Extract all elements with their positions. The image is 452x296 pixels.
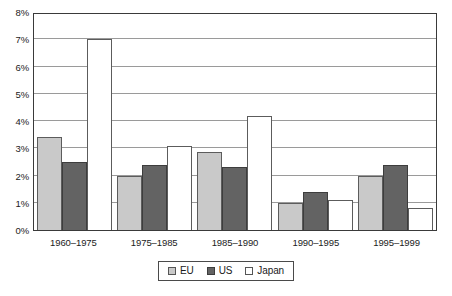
bar-group [197,14,272,230]
legend-box: EUUSJapan [158,261,294,281]
y-axis-tick-label: 5% [0,90,29,100]
legend-entry-eu[interactable]: EU [168,265,194,276]
y-axis-tick-label: 3% [0,144,29,154]
x-axis-tick-label: 1960–1975 [33,236,113,254]
bar-japan-1990-1995[interactable] [328,200,353,230]
legend: EUUSJapan [0,261,452,281]
bar-eu-1985-1990[interactable] [197,152,222,230]
y-axis: 8%7%6%5%4%3%2%1%0% [0,8,29,238]
bar-eu-1975-1985[interactable] [117,176,142,231]
bar-japan-1985-1990[interactable] [247,116,272,230]
legend-entry-japan[interactable]: Japan [245,265,284,276]
bar-us-1960-1975[interactable] [62,162,87,230]
y-axis-tick-label: 0% [0,226,29,236]
bar-group [278,14,353,230]
y-axis-tick-label: 7% [0,35,29,45]
plot-area [33,13,437,231]
bar-us-1990-1995[interactable] [303,192,328,230]
legend-swatch-japan-icon [245,267,253,275]
y-axis-tick-label: 6% [0,63,29,73]
bars-layer [34,14,436,230]
x-axis: 1960–19751975–19851985–19901990–19951995… [33,236,437,254]
bar-eu-1995-1999[interactable] [358,176,383,231]
y-axis-tick-label: 2% [0,172,29,182]
legend-entry-us[interactable]: US [207,265,233,276]
x-axis-tick-label: 1995–1999 [357,236,437,254]
legend-label: US [219,265,233,276]
legend-swatch-us-icon [207,267,215,275]
bar-eu-1990-1995[interactable] [278,203,303,230]
bar-group [358,14,433,230]
x-axis-tick-label: 1975–1985 [114,236,194,254]
chart-figure: 8%7%6%5%4%3%2%1%0% 1960–19751975–1985198… [0,0,452,296]
x-axis-tick-label: 1985–1990 [195,236,275,254]
bar-us-1985-1990[interactable] [222,167,247,230]
bar-eu-1960-1975[interactable] [37,137,62,230]
bar-group [117,14,192,230]
legend-label: Japan [257,265,284,276]
bar-japan-1995-1999[interactable] [408,208,433,230]
legend-label: EU [180,265,194,276]
y-axis-tick-label: 8% [0,8,29,18]
legend-swatch-eu-icon [168,267,176,275]
y-axis-tick-label: 4% [0,117,29,127]
bar-japan-1960-1975[interactable] [87,39,112,230]
bar-us-1975-1985[interactable] [142,165,167,230]
x-axis-tick-label: 1990–1995 [276,236,356,254]
bar-japan-1975-1985[interactable] [167,146,192,230]
bar-group [37,14,112,230]
y-axis-tick-label: 1% [0,199,29,209]
bar-us-1995-1999[interactable] [383,165,408,230]
